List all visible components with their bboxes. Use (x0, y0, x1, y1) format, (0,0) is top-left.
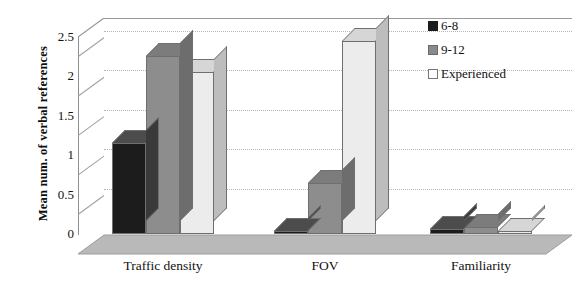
bar-front-face (274, 231, 308, 234)
y-axis-tick-label: 0 (34, 226, 74, 242)
legend-swatch-icon (428, 21, 438, 31)
legend-swatch-icon (428, 45, 438, 55)
x-axis-category-label: Traffic density (83, 258, 243, 274)
bar (112, 143, 146, 234)
x-axis-category-label: Familiarity (401, 258, 561, 274)
y-axis-tick-label: 1.5 (34, 108, 74, 124)
legend-item-label: Experienced (441, 67, 506, 80)
y-axis-tick-labels: 00.511.522.5 (34, 0, 74, 297)
bar-side-face (214, 46, 227, 221)
legend-item-1[interactable]: 9-12 (428, 42, 578, 57)
y-axis-tick-label: 0.5 (34, 187, 74, 203)
legend-item-0[interactable]: 6-8 (428, 18, 578, 33)
bar-side-face (180, 30, 193, 221)
bar-side-face (146, 117, 159, 221)
bar (464, 227, 498, 234)
bar (430, 229, 464, 234)
legend-swatch-icon (428, 69, 438, 79)
bar-chart: Mean num. of verbal references 00.511.52… (0, 0, 586, 297)
x-axis-category-labels: Traffic densityFOVFamiliarity (78, 258, 572, 288)
chart-legend: 6-8 9-12 Experienced (428, 18, 578, 90)
legend-item-2[interactable]: Experienced (428, 66, 578, 81)
bar-side-face (376, 15, 389, 221)
y-axis-tick-label: 1 (34, 147, 74, 163)
legend-item-label: 9-12 (441, 43, 465, 56)
bar-front-face (112, 143, 146, 234)
bar (498, 231, 532, 234)
legend-item-label: 6-8 (441, 19, 458, 32)
bar-front-face (430, 229, 464, 234)
bar-front-face (498, 231, 532, 234)
bar-front-face (308, 183, 342, 234)
bar (308, 183, 342, 234)
bar-front-face (464, 227, 498, 234)
x-axis-category-label: FOV (245, 258, 405, 274)
y-axis-tick-label: 2.5 (34, 29, 74, 45)
bar (274, 231, 308, 234)
y-axis-tick-label: 2 (34, 68, 74, 84)
